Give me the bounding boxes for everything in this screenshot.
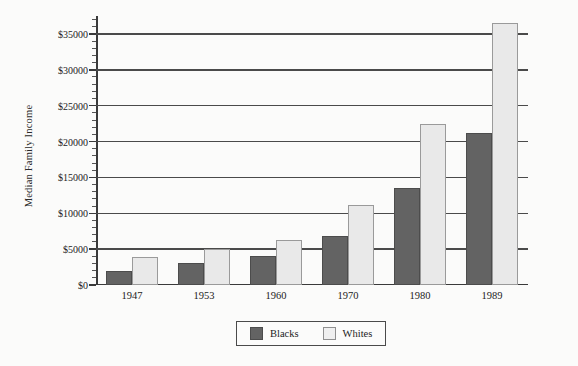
- y-axis-minor-tick: [92, 198, 96, 199]
- plot-area: [96, 16, 528, 285]
- bar-whites-1947: [132, 257, 158, 285]
- y-axis-minor-tick: [92, 120, 96, 121]
- gridline: [96, 141, 528, 143]
- gridline: [96, 248, 528, 250]
- bar-whites-1960: [276, 240, 302, 285]
- y-axis-minor-tick: [92, 84, 96, 85]
- y-axis-minor-tick: [92, 163, 96, 164]
- y-axis-minor-tick: [92, 134, 96, 135]
- y-axis-minor-tick: [92, 41, 96, 42]
- y-axis-minor-tick: [92, 48, 96, 49]
- y-axis-minor-tick: [92, 277, 96, 278]
- y-axis-tick-label: $15000: [58, 172, 88, 183]
- gridline: [96, 105, 528, 107]
- y-axis-minor-tick: [92, 98, 96, 99]
- y-axis-minor-tick: [92, 62, 96, 63]
- gridline: [96, 213, 528, 215]
- x-axis-tick-label: 1953: [194, 290, 215, 301]
- y-axis-major-tick: [89, 177, 96, 179]
- y-axis-minor-tick: [92, 76, 96, 77]
- y-axis-minor-tick: [92, 184, 96, 185]
- legend-entry-blacks: Blacks: [250, 327, 299, 340]
- bar-whites-1970: [348, 205, 374, 285]
- y-axis-minor-tick: [92, 19, 96, 20]
- y-axis-tick-label: $5000: [63, 244, 88, 255]
- y-axis-minor-tick: [92, 155, 96, 156]
- y-axis-minor-tick: [92, 55, 96, 56]
- legend-label-whites: Whites: [343, 328, 373, 339]
- x-axis-tick-labels: 194719531960197019801989: [96, 290, 528, 308]
- gridline: [96, 33, 528, 35]
- y-axis-tick-label: $35000: [58, 28, 88, 39]
- y-axis-minor-tick: [92, 112, 96, 113]
- legend-swatch-blacks-icon: [250, 327, 263, 340]
- x-axis-tick-label: 1960: [266, 290, 287, 301]
- bar-blacks-1953: [178, 263, 204, 285]
- bar-blacks-1970: [322, 236, 348, 285]
- y-axis-major-tick: [89, 33, 96, 35]
- x-axis-tick-label: 1947: [122, 290, 143, 301]
- y-axis-tick-label: $10000: [58, 208, 88, 219]
- y-axis-major-tick: [89, 284, 96, 286]
- y-axis-minor-tick: [92, 206, 96, 207]
- y-axis-tick-label: $25000: [58, 100, 88, 111]
- y-axis-major-tick: [89, 213, 96, 215]
- chart-figure: Median Family Income $0$5000$10000$15000…: [0, 0, 578, 366]
- bar-blacks-1947: [106, 271, 132, 285]
- bar-blacks-1960: [250, 256, 276, 285]
- y-axis-minor-tick: [92, 227, 96, 228]
- gridline: [96, 69, 528, 71]
- legend-label-blacks: Blacks: [270, 328, 299, 339]
- y-axis-minor-tick: [92, 256, 96, 257]
- x-axis-tick-label: 1970: [338, 290, 359, 301]
- y-axis-line: [96, 16, 98, 285]
- y-axis-tick-label: $0: [78, 280, 88, 291]
- y-axis-minor-tick: [92, 270, 96, 271]
- x-axis-tick-label: 1989: [482, 290, 503, 301]
- bar-blacks-1980: [394, 188, 420, 285]
- y-axis-minor-tick: [92, 26, 96, 27]
- bar-whites-1980: [420, 124, 446, 285]
- y-axis-minor-tick: [92, 91, 96, 92]
- y-axis-minor-tick: [92, 241, 96, 242]
- y-axis-minor-tick: [92, 148, 96, 149]
- bar-whites-1989: [492, 23, 518, 285]
- x-axis-line: [96, 284, 528, 286]
- y-axis-major-tick: [89, 105, 96, 107]
- y-axis-major-tick: [89, 141, 96, 143]
- y-axis-tick-label: $30000: [58, 64, 88, 75]
- legend: Blacks Whites: [236, 321, 386, 346]
- y-axis-minor-tick: [92, 234, 96, 235]
- y-axis-minor-tick: [92, 263, 96, 264]
- y-axis-minor-tick: [92, 127, 96, 128]
- bar-whites-1953: [204, 249, 230, 285]
- legend-entry-whites: Whites: [323, 327, 373, 340]
- x-axis-tick-label: 1980: [410, 290, 431, 301]
- gridline: [96, 177, 528, 179]
- y-axis-major-tick: [89, 69, 96, 71]
- legend-swatch-whites-icon: [323, 327, 336, 340]
- y-axis-minor-tick: [92, 170, 96, 171]
- bar-blacks-1989: [466, 133, 492, 285]
- y-axis-minor-tick: [92, 220, 96, 221]
- y-axis-major-tick: [89, 248, 96, 250]
- y-axis-tick-labels: $0$5000$10000$15000$20000$25000$30000$35…: [30, 16, 88, 285]
- y-axis-tick-label: $20000: [58, 136, 88, 147]
- y-axis-minor-tick: [92, 191, 96, 192]
